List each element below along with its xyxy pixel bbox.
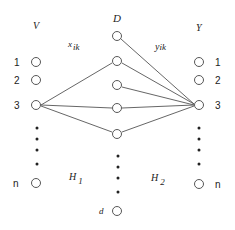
edge-label-y-ik: yik [154,41,167,52]
y-node-label-1: 1 [215,57,221,68]
d-node-5 [113,130,122,139]
d-column: d [99,32,122,217]
edge-d5-y3 [122,106,194,132]
y-node-2 [195,76,204,85]
v-node-label-1: 1 [14,57,20,68]
d-node-label-d: d [99,206,104,216]
v-node-label-n: n [13,178,19,189]
d-node-1 [113,32,122,41]
svg-text:yik: yik [154,41,167,52]
column-label-y: Y [196,22,203,33]
y-node-label-2: 2 [215,75,221,86]
y-column: 1 2 3 n [195,57,222,190]
edge-v3-d4 [41,105,112,108]
v-column: 1 2 3 n [13,57,41,189]
edge-v3-d5 [41,106,112,132]
region-label-h2: H2 [150,172,165,187]
edge-d3-y3 [122,87,194,105]
v-node-3 [32,101,41,110]
v-node-label-3: 3 [14,100,20,111]
region-label-h1: H1 [68,171,83,186]
y-node-label-n: n [215,179,221,190]
y-node-3 [195,101,204,110]
edge-v3-d2 [41,63,112,105]
v-node-label-2: 2 [14,75,20,86]
d-node-d [113,207,122,216]
v-node-n [32,179,41,188]
y-ellipsis-dots [198,127,201,166]
d-node-4 [113,104,122,113]
v-node-1 [32,58,41,67]
edge-d4-y3 [122,105,194,108]
d-ellipsis-dots [117,155,120,194]
v-node-2 [32,76,41,85]
d-node-3 [113,81,122,90]
d-node-2 [113,57,122,66]
y-node-1 [195,58,204,67]
v-ellipsis-dots [36,127,39,166]
column-label-v: V [33,20,41,31]
edge-d2-y3 [122,63,194,104]
svg-text:H1: H1 [68,171,83,186]
y-node-n [195,180,204,189]
column-label-d: D [112,12,121,24]
edge-label-x-ik: xik [67,39,81,52]
svg-text:xik: xik [67,39,81,52]
y-node-label-3: 3 [215,100,221,111]
svg-text:H2: H2 [150,172,165,187]
bipartite-flow-diagram: V D Y xik yik H1 H2 1 2 3 n d [0,0,235,230]
